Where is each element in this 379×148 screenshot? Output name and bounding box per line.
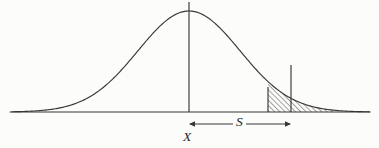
- bell-curve-figure: X S: [0, 0, 379, 148]
- shaded-tail-region: [268, 82, 335, 112]
- bell-curve-svg: [0, 0, 379, 148]
- spread-label: S: [233, 115, 246, 129]
- normal-distribution-curve: [12, 11, 370, 112]
- mean-label: X: [183, 130, 191, 144]
